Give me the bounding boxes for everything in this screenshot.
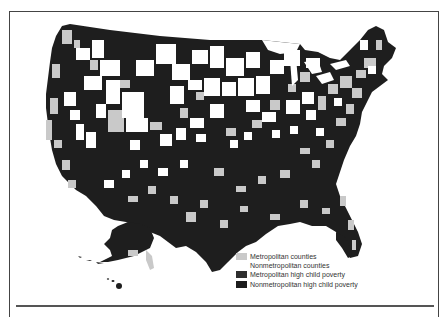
alaska-panhandle xyxy=(146,250,154,270)
legend-item-metro-high-poverty: Metropolitan high child poverty xyxy=(236,270,358,279)
map-legend: Metropolitan counties Nonmetropolitan co… xyxy=(236,252,358,289)
legend-label: Nonmetropolitan high child poverty xyxy=(250,280,358,289)
legend-item-metro: Metropolitan counties xyxy=(236,252,358,261)
swatch-metro-high-poverty-icon xyxy=(236,271,247,278)
alaska-metro-patch xyxy=(128,250,138,256)
legend-label: Nonmetropolitan counties xyxy=(250,261,329,270)
legend-item-nonmetro-high-poverty: Nonmetropolitan high child poverty xyxy=(236,280,358,289)
legend-item-nonmetro: Nonmetropolitan counties xyxy=(236,261,358,270)
legend-label: Metropolitan high child poverty xyxy=(250,270,345,279)
alaska xyxy=(100,222,154,262)
swatch-metro-icon xyxy=(236,253,247,260)
swatch-nonmetro-high-poverty-icon xyxy=(236,281,247,288)
aleutian-islands xyxy=(78,256,104,264)
hawaii xyxy=(107,278,122,289)
us-county-map xyxy=(0,0,447,317)
legend-label: Metropolitan counties xyxy=(250,252,317,261)
swatch-nonmetro-icon xyxy=(236,262,247,269)
